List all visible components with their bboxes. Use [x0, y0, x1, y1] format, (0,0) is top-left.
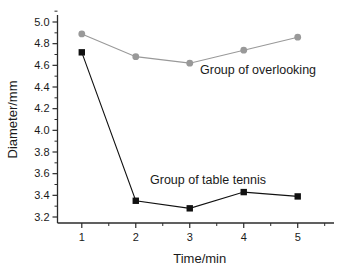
y-tick-label: 4.8: [34, 37, 49, 49]
annotation-overlooking: Group of overlooking: [200, 63, 316, 77]
y-tick-label: 3.6: [34, 167, 49, 179]
data-point-marker: [240, 47, 247, 54]
x-ticks-group: 12345: [79, 223, 325, 243]
x-tick-label: 4: [241, 231, 247, 243]
series-line: [82, 34, 298, 63]
x-tick-label: 1: [79, 231, 85, 243]
data-point-marker: [294, 34, 301, 41]
data-point-marker: [295, 193, 301, 199]
y-tick-label: 3.8: [34, 146, 49, 158]
data-point-marker: [79, 49, 85, 55]
x-tick-label: 5: [295, 231, 301, 243]
y-tick-label: 4.0: [34, 124, 49, 136]
y-tick-label: 3.4: [34, 189, 49, 201]
y-ticks-group: 3.23.43.63.84.04.24.44.64.85.0: [34, 11, 57, 223]
x-axis-title: Time/min: [173, 251, 226, 266]
series-1: [78, 31, 301, 67]
y-tick-label: 4.6: [34, 59, 49, 71]
data-point-marker: [78, 31, 85, 38]
data-point-marker: [133, 198, 139, 204]
data-point-marker: [187, 205, 193, 211]
data-point-marker: [241, 189, 247, 195]
y-tick-label: 4.4: [34, 81, 49, 93]
annotations-group: Group of overlookingGroup of table tenni…: [150, 63, 316, 187]
y-tick-label: 4.2: [34, 102, 49, 114]
chart-container: 3.23.43.63.84.04.24.44.64.85.012345Group…: [0, 0, 345, 277]
annotation-table-tennis: Group of table tennis: [150, 173, 266, 187]
data-point-marker: [132, 53, 139, 60]
x-tick-label: 2: [133, 231, 139, 243]
y-tick-label: 3.2: [34, 211, 49, 223]
line-chart: 3.23.43.63.84.04.24.44.64.85.012345Group…: [0, 0, 345, 277]
y-axis-title: Diameter/mm: [5, 80, 20, 158]
y-tick-label: 5.0: [34, 16, 49, 28]
x-tick-label: 3: [187, 231, 193, 243]
axes-group: [58, 15, 335, 223]
data-point-marker: [186, 60, 193, 67]
